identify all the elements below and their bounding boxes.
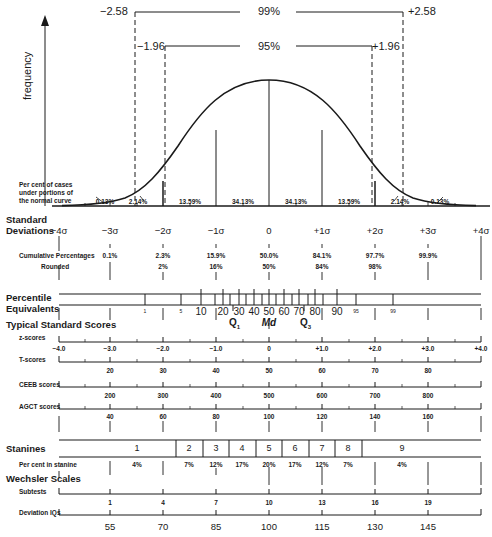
cum-pct: 97.7%	[366, 253, 384, 260]
agct-value: 120	[317, 414, 328, 421]
stanines-label: Stanines	[6, 444, 46, 454]
arrow-up-icon	[41, 15, 49, 26]
stanine-value: 9	[399, 444, 404, 453]
subtest-value: 7	[214, 500, 218, 507]
t-value: 50	[265, 368, 272, 375]
ceeb-value: 700	[370, 393, 381, 400]
iq-value: 130	[367, 522, 383, 532]
wechsler-heading: Wechsler Scales	[6, 474, 81, 484]
t-value: 60	[318, 368, 325, 375]
agct-value: 60	[159, 414, 166, 421]
q3-marker: Q3	[300, 318, 311, 330]
stanine-pct: 17%	[235, 462, 248, 469]
pct-tick: 50	[263, 307, 274, 317]
rounded-pct: 2%	[158, 264, 167, 271]
area-pct: 34.13%	[232, 199, 254, 206]
stanine-pct: 12%	[315, 462, 328, 469]
z-value: +3.0	[422, 346, 435, 353]
area-pct: 0.13%	[96, 199, 114, 206]
z-value: +2.0	[369, 346, 382, 353]
pct-tick: 80	[309, 307, 320, 317]
t-value: 30	[159, 368, 166, 375]
per-cent-in-stanine-label: Per cent in stanine	[19, 462, 77, 469]
rounded-pct: 84%	[315, 264, 328, 271]
sd-tick: +3σ	[420, 226, 437, 236]
iq-value: 85	[211, 522, 222, 532]
standard-scores-heading: Typical Standard Scores	[6, 320, 116, 330]
sd-tick: +2σ	[367, 226, 384, 236]
ceeb-value: 500	[264, 393, 275, 400]
ceeb-value: 300	[158, 393, 169, 400]
stanine-pct: 20%	[262, 462, 275, 469]
stanine-pct: 4%	[132, 462, 141, 469]
ci99-left-label: −2.58	[100, 6, 128, 17]
t-value: 80	[424, 368, 431, 375]
cum-pct: 84.1%	[313, 253, 331, 260]
area-pct: 0.13%	[431, 199, 449, 206]
cumulative-label: Cumulative Percentages	[19, 253, 95, 260]
t-value: 70	[371, 368, 378, 375]
iq-value: 55	[105, 522, 116, 532]
ceeb-scores-label: CEEB scores	[19, 382, 60, 389]
stanine-value: 3	[213, 444, 218, 453]
subtest-value: 4	[161, 500, 165, 507]
pct-tick: 60	[278, 307, 289, 317]
sd-tick: 0	[266, 226, 271, 236]
pct-tick: 20	[217, 307, 228, 317]
pct-tick: 5	[180, 309, 183, 314]
median-marker: Md	[262, 318, 276, 328]
ceeb-value: 800	[423, 393, 434, 400]
iq-value: 115	[314, 522, 329, 532]
deviation-iq-label: Deviation IQs	[19, 510, 61, 517]
normal-curve-diagram	[0, 0, 492, 537]
area-pct: 2.14%	[391, 199, 409, 206]
percentile-label: Percentile Equivalents	[6, 292, 59, 314]
stanine-pct: 7%	[184, 462, 193, 469]
rounded-label: Rounded	[41, 264, 69, 271]
ci95-label: 95%	[258, 41, 280, 52]
cum-pct: 99.9%	[419, 253, 437, 260]
sd-tick: −3σ	[102, 226, 119, 236]
z-value: 0	[267, 346, 271, 353]
ci95-left-label: −1.96	[137, 41, 165, 52]
z-value: −1.0	[210, 346, 223, 353]
ceeb-value: 400	[211, 393, 222, 400]
rounded-pct: 98%	[368, 264, 381, 271]
pct-tick: 95	[353, 309, 359, 314]
stanine-value: 7	[319, 444, 324, 453]
subtest-value: 19	[424, 500, 431, 507]
t-value: 40	[212, 368, 219, 375]
z-value: +1.0	[316, 346, 329, 353]
subtest-value: 1	[108, 500, 112, 507]
agct-value: 100	[264, 414, 275, 421]
area-pct: 34.13%	[285, 199, 307, 206]
stanine-value: 6	[292, 444, 297, 453]
pct-tick: 90	[331, 307, 342, 317]
sd-tick: −1σ	[208, 226, 225, 236]
subtest-value: 16	[371, 500, 378, 507]
sd-tick: −4σ	[51, 226, 68, 236]
subtest-value: 13	[318, 500, 325, 507]
iq-value: 70	[158, 522, 169, 532]
agct-scores-label: AGCT scores	[19, 404, 60, 411]
ci99-label: 99%	[258, 6, 280, 17]
area-pct: 13.59%	[338, 199, 360, 206]
agct-value: 80	[212, 414, 219, 421]
ci99-right-label: +2.58	[408, 6, 436, 17]
t-value: 20	[106, 368, 113, 375]
stanine-value: 5	[266, 444, 271, 453]
z-value: −3.0	[104, 346, 117, 353]
agct-value: 40	[106, 414, 113, 421]
t-scores-label: T-scores	[19, 357, 46, 364]
pct-tick: 70	[293, 307, 304, 317]
subtest-value: 10	[265, 500, 272, 507]
cum-pct: 2.3%	[156, 253, 171, 260]
rounded-pct: 16%	[209, 264, 222, 271]
cum-pct: 0.1%	[103, 253, 118, 260]
pct-tick: 99	[390, 309, 396, 314]
pct-tick: 1	[144, 309, 147, 314]
rounded-pct: 50%	[262, 264, 275, 271]
ci95-right-label: +1.96	[372, 41, 400, 52]
sd-tick: +4σ	[473, 226, 490, 236]
sd-tick: −2σ	[155, 226, 172, 236]
